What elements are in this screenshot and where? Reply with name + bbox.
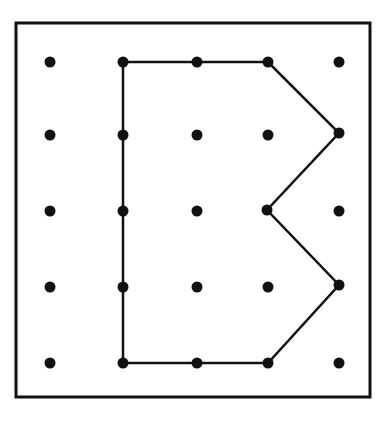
peg[interactable] [263, 282, 274, 293]
geoboard-figure [0, 0, 383, 423]
peg-on-band[interactable] [118, 57, 129, 68]
peg[interactable] [45, 130, 56, 141]
peg-on-band[interactable] [263, 57, 274, 68]
peg-on-band[interactable] [192, 358, 203, 369]
peg[interactable] [334, 206, 345, 217]
peg-on-band[interactable] [192, 57, 203, 68]
peg-on-band[interactable] [118, 358, 129, 369]
peg-on-band[interactable] [118, 130, 129, 141]
peg-on-band[interactable] [262, 205, 273, 216]
peg[interactable] [45, 206, 56, 217]
geoboard-canvas [0, 0, 383, 423]
peg-on-band[interactable] [118, 282, 129, 293]
peg[interactable] [192, 206, 203, 217]
peg[interactable] [192, 282, 203, 293]
peg-on-band[interactable] [334, 128, 345, 139]
peg[interactable] [45, 57, 56, 68]
peg[interactable] [263, 130, 274, 141]
peg[interactable] [334, 57, 345, 68]
peg[interactable] [45, 282, 56, 293]
peg-on-band[interactable] [263, 358, 274, 369]
peg[interactable] [45, 358, 56, 369]
peg-on-band[interactable] [118, 206, 129, 217]
peg[interactable] [334, 358, 345, 369]
peg[interactable] [192, 130, 203, 141]
peg-on-band[interactable] [334, 280, 345, 291]
